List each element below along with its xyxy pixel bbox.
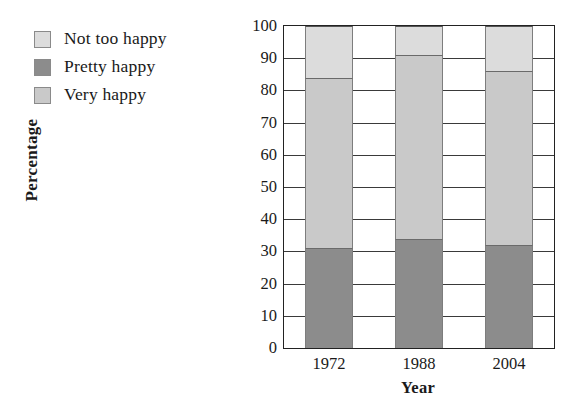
- bar-segment: [485, 71, 533, 245]
- bar-segment: [305, 78, 353, 249]
- stacked-bar-chart: Percentage 01020304050607080901001972198…: [0, 0, 584, 406]
- y-axis-tick-label: 90: [261, 50, 278, 67]
- bar-segment: [305, 248, 353, 348]
- bar-stack: [485, 26, 533, 348]
- x-axis-tick-label: 1988: [403, 356, 436, 373]
- bar-segment: [305, 26, 353, 78]
- bar-segment: [395, 26, 443, 55]
- bar-segment: [485, 26, 533, 71]
- y-axis-tick-label: 40: [261, 211, 278, 228]
- y-axis-tick-label: 100: [252, 18, 277, 35]
- y-axis-tick-label: 10: [261, 308, 278, 325]
- bar-segment: [395, 55, 443, 239]
- bar-stack: [395, 26, 443, 348]
- y-axis-tick-label: 50: [261, 179, 278, 196]
- x-axis-tick-label: 2004: [493, 356, 526, 373]
- y-axis-tick-label: 30: [261, 243, 278, 260]
- x-axis-tick-label: 1972: [313, 356, 346, 373]
- plot-area: 0102030405060708090100197219882004: [283, 25, 555, 349]
- y-axis-tick-label: 80: [261, 82, 278, 99]
- bar-segment: [395, 239, 443, 348]
- y-axis-title: Percentage: [22, 95, 42, 225]
- bar-segment: [485, 245, 533, 348]
- x-axis-title: Year: [283, 378, 553, 398]
- y-axis-tick-label: 20: [261, 275, 278, 292]
- y-axis-tick-label: 60: [261, 147, 278, 164]
- bar-stack: [305, 26, 353, 348]
- y-axis-tick-label: 70: [261, 114, 278, 131]
- y-axis-tick-label: 0: [269, 340, 277, 357]
